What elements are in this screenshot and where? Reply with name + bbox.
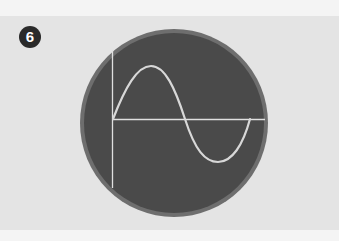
oscilloscope-diagram	[0, 0, 339, 241]
screen	[84, 33, 264, 213]
